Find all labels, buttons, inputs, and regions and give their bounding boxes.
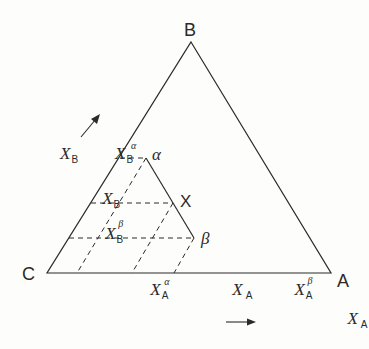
vertex-label-a: A [337, 272, 349, 290]
xb-axis-label: XB [60, 145, 77, 162]
xb-label: XB [102, 190, 119, 207]
xb-alpha-label: XB α [115, 145, 132, 162]
dash-xa-beta [174, 238, 194, 273]
vertex-label-c: C [22, 265, 35, 283]
x-point-label: X [180, 193, 191, 210]
alpha-label: α [152, 146, 161, 163]
xa-beta-label: XA β [294, 281, 311, 298]
ternary-diagram: B C A α X β XB XB α XB XB β XA α XA XA β… [0, 0, 369, 349]
beta-label: β [201, 230, 209, 247]
xa-arrow-head [247, 319, 256, 326]
dash-xa-alpha [77, 158, 146, 273]
xa-axis-label: XA [347, 310, 364, 327]
diagram-lines [0, 0, 369, 349]
xb-arrow-head [91, 114, 100, 124]
xb-arrow-line [81, 119, 96, 137]
xa-label: XA [232, 281, 249, 298]
xa-alpha-label: XA α [150, 281, 167, 298]
dash-xa [132, 203, 173, 273]
vertex-label-b: B [184, 21, 196, 39]
xb-beta-label: XB β [105, 225, 122, 242]
